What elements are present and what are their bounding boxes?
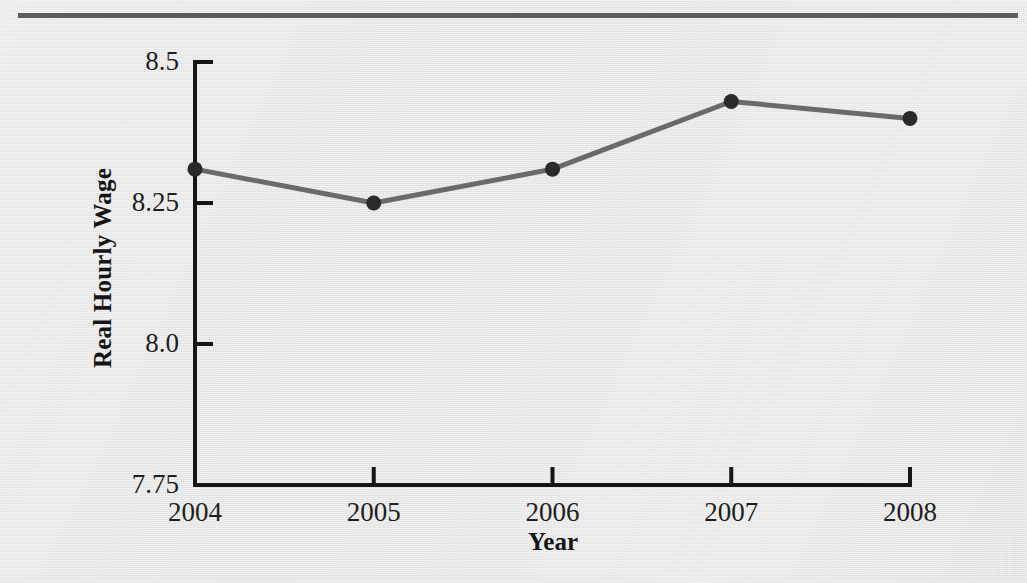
data-point-marker <box>188 162 203 177</box>
data-point-marker <box>545 162 560 177</box>
y-axis-tick-label: 8.5 <box>20 48 179 75</box>
x-axis-tick-label: 2005 <box>304 499 444 526</box>
y-axis-tick-marks <box>195 203 213 344</box>
x-axis-title: Year <box>453 528 653 556</box>
x-axis-tick-label: 2008 <box>840 499 980 526</box>
y-axis-tick-label: 7.75 <box>20 471 179 498</box>
data-point-marker <box>903 111 918 126</box>
line-chart-figure: 8.58.258.07.75 20042005200620072008 Real… <box>0 0 1027 583</box>
x-axis-tick-label: 2006 <box>483 499 623 526</box>
x-axis-tick-marks <box>374 467 732 485</box>
axis-lines <box>195 62 910 485</box>
data-point-marker <box>724 94 739 109</box>
data-point-marker <box>366 196 381 211</box>
data-point-markers <box>188 94 918 211</box>
x-axis-tick-label: 2007 <box>661 499 801 526</box>
data-line-series <box>195 101 910 203</box>
x-axis-tick-label: 2004 <box>125 499 265 526</box>
y-axis-title: Real Hourly Wage <box>89 153 117 383</box>
